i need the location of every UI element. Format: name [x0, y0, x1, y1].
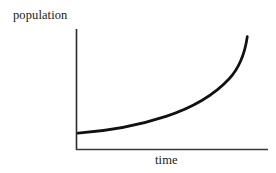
exponential-growth-chart	[0, 0, 276, 173]
figure-canvas: population time	[0, 0, 276, 173]
y-axis-label: population	[13, 8, 67, 23]
x-axis-label: time	[155, 153, 178, 168]
population-curve	[78, 37, 247, 134]
